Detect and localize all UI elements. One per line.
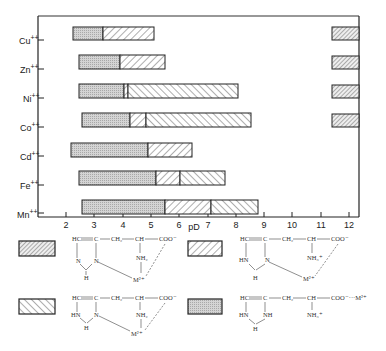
svg-text:M²⁺: M²⁺ [131,330,143,337]
x-axis-title: pD [188,222,200,232]
y-label-mn: Mn++ [17,208,44,220]
svg-text:HC: HC [72,294,81,301]
y-label-zn: Zn++ [20,63,44,75]
svg-text:H: H [253,274,258,281]
svg-text:Ni++: Ni++ [23,92,40,104]
svg-text:Mn++: Mn++ [17,208,38,220]
y-label-ni: Ni++ [23,92,44,104]
bar-cu [73,27,359,40]
svg-text:COO⁻: COO⁻ [331,235,349,242]
x-tick-5: 5 [148,220,153,230]
x-tick-6: 6 [176,220,181,230]
chart: Cu++ Zn++ Ni++ Co++ Cd++ Fe++ Mn++ [0,0,386,351]
svg-text:C: C [94,235,98,242]
structure-4: HC C CH₂ CH COO⁻···M²⁺ HN NH H NH₃⁺ [239,294,367,332]
svg-text:H: H [84,324,89,331]
bar-co [82,113,359,127]
svg-text:COO⁻···M²⁺: COO⁻···M²⁺ [331,294,367,301]
svg-text:N: N [94,311,99,318]
svg-text:CH: CH [307,294,316,301]
x-tick-11: 11 [316,220,325,230]
svg-text:CH₂: CH₂ [282,235,293,242]
svg-text:NH₂: NH₂ [136,311,148,318]
bar-fe [79,171,225,185]
svg-text:HN: HN [239,256,249,263]
svg-text:C: C [94,294,98,301]
svg-text:CH₂: CH₂ [282,294,293,301]
svg-text:HC: HC [240,235,249,242]
svg-text:N: N [94,257,99,264]
svg-text:NH₃⁺: NH₃⁺ [307,254,323,261]
bar-mn [82,200,258,214]
legend-item-fine-hatch: HC C CH₂ CH COO⁻ N N H NH₂ [19,235,177,283]
y-label-co: Co++ [20,121,44,133]
svg-text:NH₂: NH₂ [136,254,148,261]
svg-text:M²⁺: M²⁺ [133,276,145,283]
legend-item-forward-hatch: HC C CH₂ CH COO⁻ HN N H NH₂ [19,294,177,337]
svg-text:NH: NH [263,311,273,318]
svg-text:CH₂: CH₂ [111,294,122,301]
x-axis: 2 3 4 5 6 7 8 9 10 11 12 pD [63,212,354,232]
svg-text:C: C [263,235,267,242]
svg-text:H: H [84,274,89,281]
svg-text:Cd++: Cd++ [20,150,40,162]
legend-item-back-hatch: HC C CH₂ CH COO⁻ HN N H NH₃⁺ [188,235,349,282]
structure-1: HC C CH₂ CH COO⁻ N N H NH₂ [72,235,177,283]
svg-text:N: N [76,257,81,264]
bar-cd [71,143,192,157]
x-tick-4: 4 [120,220,125,230]
y-label-cu: Cu++ [19,34,44,46]
svg-text:M²⁺: M²⁺ [303,275,315,282]
svg-text:CH: CH [135,294,144,301]
x-tick-12: 12 [344,220,354,230]
svg-text:CH: CH [307,235,316,242]
x-tick-3: 3 [91,220,96,230]
x-tick-2: 2 [63,220,68,230]
svg-text:HN: HN [239,311,249,318]
y-label-cd: Cd++ [20,150,44,162]
svg-text:HC: HC [72,235,81,242]
x-tick-9: 9 [261,220,266,230]
x-tick-10: 10 [287,220,297,230]
svg-text:Co++: Co++ [20,121,40,133]
bar-ni [79,84,359,98]
legend-item-dotted: HC C CH₂ CH COO⁻···M²⁺ HN NH H NH₃⁺ [188,294,367,332]
y-axis: Cu++ Zn++ Ni++ Co++ Cd++ Fe++ Mn++ [17,34,44,220]
bar-zn [79,55,359,69]
structure-3: HC C CH₂ CH COO⁻ HN N H NH₂ [71,294,177,337]
svg-text:HC: HC [240,294,249,301]
legend: HC C CH₂ CH COO⁻ N N H NH₂ [19,235,367,337]
structure-2: HC C CH₂ CH COO⁻ HN N H NH₃⁺ [239,235,349,282]
bars [71,27,359,214]
svg-text:Cu++: Cu++ [19,34,39,46]
svg-text:NH₃⁺: NH₃⁺ [307,311,323,318]
svg-text:H: H [253,325,258,332]
svg-text:COO⁻: COO⁻ [159,294,177,301]
x-tick-8: 8 [233,220,238,230]
svg-text:Zn++: Zn++ [20,63,39,75]
x-tick-7: 7 [205,220,210,230]
svg-text:CH₂: CH₂ [111,235,122,242]
svg-text:COO⁻: COO⁻ [159,235,177,242]
svg-text:CH: CH [135,235,144,242]
svg-text:C: C [263,294,267,301]
y-label-fe: Fe++ [20,179,44,191]
svg-text:HN: HN [71,311,81,318]
svg-text:Fe++: Fe++ [20,179,39,191]
